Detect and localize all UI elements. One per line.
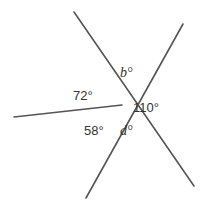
angle-label-d: d° — [120, 123, 133, 138]
angle-label-110: 110° — [133, 100, 159, 115]
angle-label-b: b° — [120, 65, 133, 80]
ray-left — [14, 105, 122, 117]
diagram-canvas: b° 72° 110° 58° d° — [0, 0, 203, 209]
angle-label-58: 58° — [84, 123, 104, 138]
angle-label-72: 72° — [73, 88, 93, 103]
angle-diagram: b° 72° 110° 58° d° — [0, 0, 203, 209]
